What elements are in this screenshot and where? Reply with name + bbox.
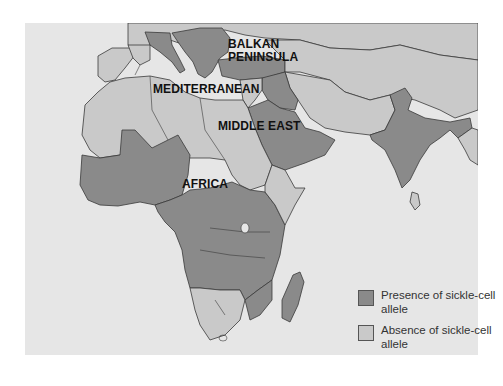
legend-swatch-absence — [358, 325, 374, 341]
legend-item-absence: Absence of sickle-cell allele — [358, 323, 501, 351]
legend-item-presence: Presence of sickle-cell allele — [358, 288, 501, 316]
legend: Presence of sickle-cell allele Absence o… — [358, 288, 501, 358]
legend-label-presence: Presence of sickle-cell allele — [381, 288, 501, 316]
label-balkan-line2: PENINSULA — [228, 51, 298, 64]
legend-swatch-presence — [358, 290, 374, 306]
label-middle-east: MIDDLE EAST — [218, 120, 300, 133]
label-balkan-peninsula: BALKAN PENINSULA — [228, 38, 298, 64]
legend-label-absence: Absence of sickle-cell allele — [381, 323, 501, 351]
label-mediterranean: MEDITERRANEAN — [153, 83, 260, 96]
label-africa: AFRICA — [182, 178, 228, 191]
